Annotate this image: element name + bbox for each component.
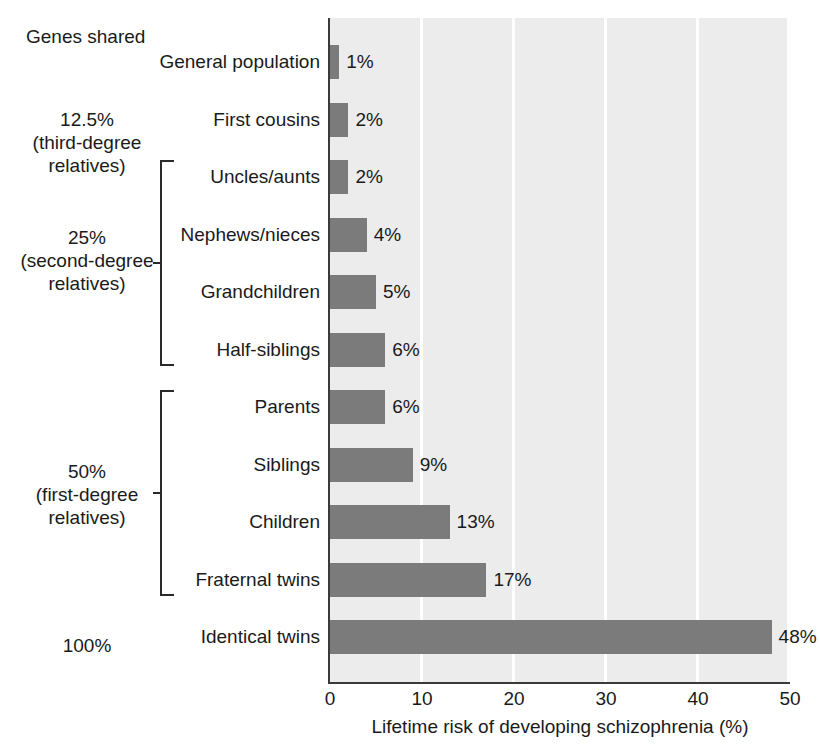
bar-value-label-2: 2% xyxy=(355,103,382,137)
bar-11 xyxy=(330,620,772,654)
bar-2 xyxy=(330,103,348,137)
x-tick-40: 40 xyxy=(668,688,728,710)
category-label-text: General population xyxy=(20,45,320,79)
genes-group-label-50-line-1: (first-degree xyxy=(0,483,182,506)
x-tick-10: 10 xyxy=(392,688,452,710)
category-label-8: Siblings xyxy=(20,448,320,482)
category-label-text: Uncles/aunts xyxy=(20,160,320,194)
bar-value-label-1: 1% xyxy=(346,45,373,79)
bar-9 xyxy=(330,505,450,539)
category-label-text: Siblings xyxy=(20,448,320,482)
bar-value-label-8: 9% xyxy=(420,448,447,482)
category-label-3: Uncles/aunts xyxy=(20,160,320,194)
bar-3 xyxy=(330,160,348,194)
bar-4 xyxy=(330,218,367,252)
x-axis-line xyxy=(328,682,790,684)
category-label-4: Nephews/nieces xyxy=(20,218,320,252)
gridline-40 xyxy=(696,18,699,682)
bar-value-label-6: 6% xyxy=(392,333,419,367)
bracket-second-degree-tick xyxy=(153,262,162,264)
category-label-text: Parents xyxy=(20,390,320,424)
bar-10 xyxy=(330,563,486,597)
category-label-2: First cousins xyxy=(20,103,320,137)
category-label-text: Fraternal twins xyxy=(20,563,320,597)
category-label-11: Identical twins xyxy=(20,620,320,654)
category-label-text: First cousins xyxy=(20,103,320,137)
bar-value-label-3: 2% xyxy=(355,160,382,194)
bar-value-label-10: 17% xyxy=(493,563,531,597)
category-label-text: Identical twins xyxy=(20,620,320,654)
bar-5 xyxy=(330,275,376,309)
x-tick-20: 20 xyxy=(484,688,544,710)
x-tick-0: 0 xyxy=(300,688,360,710)
category-label-text: Children xyxy=(20,505,320,539)
gridline-30 xyxy=(604,18,607,682)
x-tick-50: 50 xyxy=(760,688,820,710)
bar-value-label-7: 6% xyxy=(392,390,419,424)
gridline-50 xyxy=(787,18,790,682)
category-label-1: General population xyxy=(20,45,320,79)
bar-value-label-5: 5% xyxy=(383,275,410,309)
genes-group-label-25-line-1: (second-degree xyxy=(0,249,182,272)
bar-value-label-9: 13% xyxy=(457,505,495,539)
bar-1 xyxy=(330,45,339,79)
category-label-text: Half-siblings xyxy=(20,333,320,367)
category-label-5: Grandchildren xyxy=(20,275,320,309)
x-axis-title: Lifetime risk of developing schizophreni… xyxy=(330,716,790,738)
category-label-text: Grandchildren xyxy=(20,275,320,309)
x-tick-30: 30 xyxy=(576,688,636,710)
category-label-6: Half-siblings xyxy=(20,333,320,367)
bar-6 xyxy=(330,333,385,367)
category-label-10: Fraternal twins xyxy=(20,563,320,597)
category-label-text: Nephews/nieces xyxy=(20,218,320,252)
category-label-7: Parents xyxy=(20,390,320,424)
bar-7 xyxy=(330,390,385,424)
bar-8 xyxy=(330,448,413,482)
bracket-first-degree-tick xyxy=(153,492,162,494)
bar-value-label-4: 4% xyxy=(374,218,401,252)
bar-value-label-11: 48% xyxy=(779,620,817,654)
category-label-9: Children xyxy=(20,505,320,539)
